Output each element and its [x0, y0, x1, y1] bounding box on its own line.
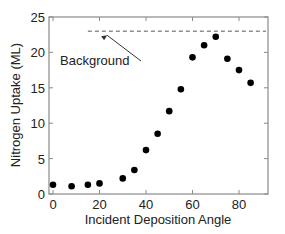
- data-point: [178, 86, 185, 93]
- x-tick-label: 60: [185, 197, 199, 212]
- x-axis-label: Incident Deposition Angle: [85, 212, 232, 227]
- data-point: [131, 167, 138, 174]
- arrowhead-icon: [101, 35, 107, 40]
- data-point: [50, 181, 57, 188]
- data-point: [143, 147, 150, 154]
- y-tick-label: 25: [31, 10, 45, 25]
- data-point: [96, 180, 103, 187]
- chart-canvas: 0510152025020406080 Incident Deposition …: [0, 0, 285, 234]
- y-tick-label: 5: [38, 152, 45, 167]
- background-annotation-label: Background: [60, 53, 129, 68]
- data-point: [224, 55, 231, 62]
- data-point: [154, 131, 161, 138]
- data-point: [247, 80, 254, 87]
- y-tick-label: 10: [31, 116, 45, 131]
- y-tick-label: 15: [31, 81, 45, 96]
- data-point: [236, 67, 243, 74]
- data-point: [85, 181, 92, 188]
- data-point: [189, 54, 196, 61]
- x-tick-label: 80: [232, 197, 246, 212]
- data-point: [201, 42, 208, 49]
- plot-border: [49, 17, 268, 194]
- data-point: [212, 34, 219, 41]
- data-point: [68, 183, 75, 190]
- y-tick-label: 20: [31, 45, 45, 60]
- nitrogen-uptake-chart: 0510152025020406080 Incident Deposition …: [0, 0, 285, 234]
- x-tick-label: 20: [92, 197, 106, 212]
- x-tick-label: 40: [139, 197, 153, 212]
- data-point: [119, 175, 126, 182]
- x-tick-label: 0: [49, 197, 56, 212]
- data-point: [166, 108, 173, 115]
- y-axis-label: Nitrogen Uptake (ML): [8, 43, 23, 167]
- y-tick-label: 0: [38, 187, 45, 202]
- axis-ticks: 0510152025020406080: [31, 10, 268, 212]
- plot-frame: [49, 17, 268, 194]
